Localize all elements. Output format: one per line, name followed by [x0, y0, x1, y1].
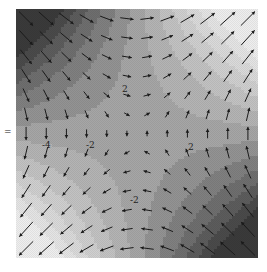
contour-label: -2 [86, 140, 95, 150]
contour-label: 2 [188, 142, 194, 152]
chart-canvas: -4-22-22 = [0, 0, 267, 272]
contour-label: -4 [42, 140, 51, 150]
contour-label: -2 [130, 195, 139, 205]
side-mark: = [4, 127, 12, 137]
contour-quiver-chart: -4-22-22 = [0, 0, 267, 272]
dither-texture [16, 9, 258, 258]
contour-label: 2 [122, 84, 128, 94]
